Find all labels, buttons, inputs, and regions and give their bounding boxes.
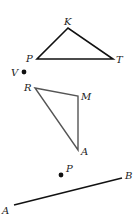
vertex-label-k: K bbox=[63, 16, 72, 27]
point-label-p: P bbox=[65, 163, 73, 174]
endpoint-label-a: A bbox=[1, 205, 9, 216]
vertex-label-m: M bbox=[80, 91, 92, 102]
triangle-rma bbox=[35, 88, 78, 150]
geometry-diagram: K P T V R M A P A B bbox=[0, 0, 138, 220]
point-v-dot bbox=[22, 70, 27, 75]
point-p-dot bbox=[59, 173, 64, 178]
triangle-pkt bbox=[37, 28, 113, 59]
vertex-label-p: P bbox=[25, 53, 33, 64]
vertex-label-r: R bbox=[23, 82, 32, 93]
vertex-label-a: A bbox=[80, 146, 88, 157]
segment-ab bbox=[14, 178, 122, 205]
endpoint-label-b: B bbox=[124, 170, 132, 181]
vertex-label-t: T bbox=[116, 54, 124, 65]
point-label-v: V bbox=[11, 67, 20, 78]
